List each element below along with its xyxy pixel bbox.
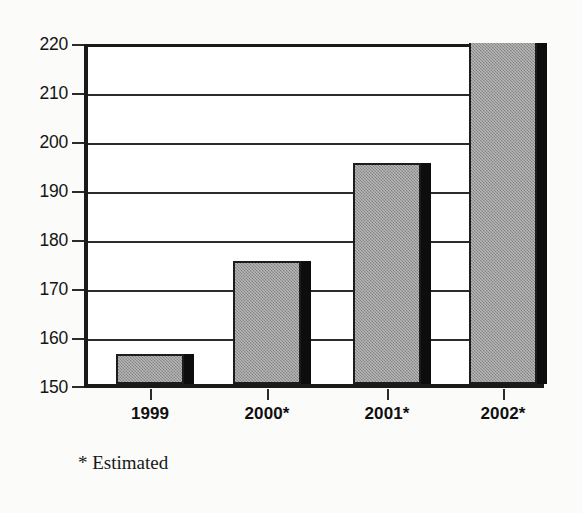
- bar-2000-shadow: [301, 261, 311, 384]
- estimated-footnote: * Estimated: [78, 452, 168, 474]
- bar-2000[interactable]: [233, 261, 311, 384]
- bar-2002-face: [469, 43, 537, 384]
- bar-1999-shadow: [184, 354, 194, 384]
- y-axis-label-170: 170: [16, 281, 68, 299]
- x-axis-tick-1999: [150, 389, 152, 400]
- y-axis-label-200: 200: [16, 134, 68, 152]
- bar-2002-shadow: [537, 43, 547, 384]
- plot-area: [84, 44, 544, 388]
- x-axis-tick-2002: [503, 389, 505, 400]
- y-axis-label-220: 220: [16, 36, 68, 54]
- x-axis-label-2000: 2000*: [245, 404, 290, 424]
- y-axis-label-210: 210: [16, 85, 68, 103]
- bar-1999-face: [116, 354, 184, 384]
- bar-2001[interactable]: [353, 163, 431, 384]
- bar-2001-face: [353, 163, 421, 384]
- y-axis-label-180: 180: [16, 232, 68, 250]
- bar-2001-shadow: [421, 163, 431, 384]
- bars: [88, 47, 541, 384]
- y-axis-label-190: 190: [16, 183, 68, 201]
- bar-1999[interactable]: [116, 354, 194, 384]
- bar-2000-face: [233, 261, 301, 384]
- y-axis-label-150: 150: [16, 379, 68, 397]
- x-axis-tick-2001: [387, 389, 389, 400]
- x-axis-label-2002: 2002*: [481, 404, 526, 424]
- x-axis-tick-2000: [267, 389, 269, 400]
- x-axis-label-1999: 1999: [131, 404, 169, 424]
- bar-2002[interactable]: [469, 43, 547, 384]
- y-axis-label-160: 160: [16, 330, 68, 348]
- bar-chart-figure: 220 210 200 190 180 170 160 150: [0, 0, 582, 513]
- x-axis-label-2001: 2001*: [365, 404, 410, 424]
